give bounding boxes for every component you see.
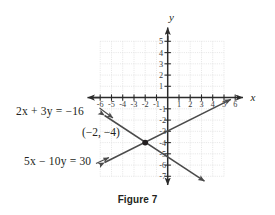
ytick-label: 1 bbox=[159, 82, 163, 91]
xtick-label: 3 bbox=[199, 100, 203, 109]
xtick-label: 2 bbox=[188, 100, 192, 109]
xtick-label: 6 bbox=[233, 100, 237, 109]
ytick-label: -6 bbox=[159, 161, 166, 170]
ytick-label: -2 bbox=[159, 116, 166, 125]
intersection-point-label: (−2, −4) bbox=[82, 126, 120, 138]
ytick-label: -4 bbox=[159, 139, 166, 148]
y-axis-tick-labels: 5 4 3 2 1 -1 -2 -3 -4 -5 -6 -7 bbox=[159, 37, 166, 181]
ytick-label: 5 bbox=[159, 37, 163, 46]
x-axis-label: x bbox=[250, 91, 256, 103]
figure-container: -6 -5 -4 -3 -2 -1 1 2 3 4 5 6 5 4 3 2 1 … bbox=[0, 0, 275, 215]
figure-caption: Figure 7 bbox=[0, 194, 275, 205]
equation-label-2x-3y: 2x + 3y = −16 bbox=[16, 105, 84, 117]
ytick-label: -1 bbox=[159, 105, 166, 114]
ytick-label: 2 bbox=[159, 71, 163, 80]
ytick-label: -7 bbox=[159, 172, 166, 181]
xtick-label: -2 bbox=[142, 100, 149, 109]
y-axis-label: y bbox=[168, 11, 174, 23]
ytick-label: 3 bbox=[159, 60, 163, 69]
xtick-label: 1 bbox=[177, 100, 181, 109]
xtick-label: -5 bbox=[108, 100, 115, 109]
intersection-point-marker bbox=[142, 140, 148, 146]
equation-label-5x-10y: 5x − 10y = 30 bbox=[24, 155, 91, 167]
xtick-label: -3 bbox=[131, 100, 138, 109]
ytick-label: 4 bbox=[159, 49, 163, 58]
xtick-label: -4 bbox=[119, 100, 126, 109]
